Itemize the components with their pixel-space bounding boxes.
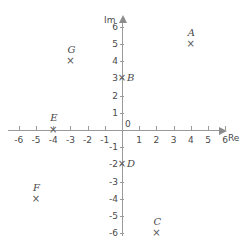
x-axis-tick	[70, 126, 71, 130]
y-axis-tick-label: 6	[96, 23, 118, 32]
point-label-g: G	[67, 45, 75, 55]
complex-plane-plot: Re Im -6-5-4-3-2-10123456654321-1-2-3-4-…	[0, 0, 248, 248]
y-axis-tick-label: -4	[96, 195, 118, 204]
y-axis-tick-label: 3	[96, 74, 118, 83]
y-axis-tick	[120, 61, 124, 62]
point-label-d: D	[127, 159, 135, 169]
y-axis-tick-label: 5	[96, 40, 118, 49]
y-axis-tick-label: 4	[96, 57, 118, 66]
point-marker-g: ×	[64, 56, 76, 66]
y-axis-tick-label: 1	[96, 109, 118, 118]
point-label-a: A	[188, 28, 195, 38]
x-axis-tick	[225, 126, 226, 130]
imaginary-axis-arrow-icon	[119, 15, 127, 23]
origin-label: 0	[125, 120, 131, 129]
x-axis-tick	[156, 126, 157, 130]
y-axis-tick-label: -1	[96, 143, 118, 152]
y-axis-tick	[120, 44, 124, 45]
x-axis-tick	[88, 126, 89, 130]
x-axis-tick-label: 6	[215, 136, 235, 145]
y-axis-tick	[120, 216, 124, 217]
x-axis-tick	[19, 126, 20, 130]
point-label-e: E	[50, 113, 57, 123]
y-axis-tick-label: -6	[96, 229, 118, 238]
real-axis-line	[8, 130, 221, 131]
y-axis-tick	[120, 147, 124, 148]
x-axis-tick	[191, 126, 192, 130]
point-marker-f: ×	[30, 194, 42, 204]
point-marker-e: ×	[47, 125, 59, 135]
y-axis-tick-label: 2	[96, 92, 118, 101]
y-axis-tick	[120, 27, 124, 28]
x-axis-tick	[208, 126, 209, 130]
point-label-f: F	[33, 183, 40, 193]
y-axis-tick	[120, 199, 124, 200]
y-axis-tick-label: -2	[96, 160, 118, 169]
y-axis-tick	[120, 113, 124, 114]
imaginary-axis-line	[122, 22, 123, 236]
x-axis-tick	[105, 126, 106, 130]
x-axis-tick	[36, 126, 37, 130]
y-axis-tick	[120, 96, 124, 97]
x-axis-tick	[174, 126, 175, 130]
y-axis-tick	[120, 233, 124, 234]
y-axis-tick-label: -3	[96, 178, 118, 187]
x-axis-tick	[139, 126, 140, 130]
point-label-b: B	[127, 73, 134, 83]
point-marker-c: ×	[150, 228, 162, 238]
point-marker-a: ×	[185, 39, 197, 49]
point-label-c: C	[153, 217, 161, 227]
y-axis-tick	[120, 182, 124, 183]
y-axis-tick-label: -5	[96, 212, 118, 221]
